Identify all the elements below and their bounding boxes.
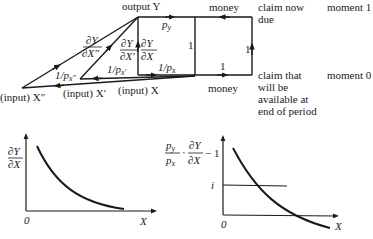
right-ylabel-frac1-num: py [165, 139, 176, 153]
claim-later-line4: end of period [258, 105, 317, 117]
claim-later-line1: claim that [258, 69, 302, 81]
left-curve [37, 146, 124, 209]
right-xlabel: X [334, 220, 343, 232]
svg-text:∂Y: ∂Y [86, 34, 99, 46]
arrow-up-dYdX1 [106, 47, 110, 51]
right-chart: py px · ∂Y ∂X − 1 i 0 X [165, 138, 343, 232]
interest-rate-label: i [211, 179, 214, 191]
svg-text:∂X′: ∂X′ [120, 50, 135, 62]
input-x2-label: (input) X″ [0, 91, 45, 104]
right-ylabel-dot: · [182, 146, 186, 158]
claim-now-line1: claim now [258, 1, 304, 13]
moment-1-label: moment 1 [327, 1, 371, 13]
input-x-label: (input) X [118, 84, 159, 97]
svg-text:∂Y: ∂Y [121, 37, 134, 49]
diagram-canvas: output Y (input) X″ (input) X′ (input) X… [0, 0, 373, 239]
svg-text:∂X: ∂X [141, 50, 154, 62]
left-ylabel-den: ∂X [8, 158, 21, 170]
claim-now-line2: due [258, 13, 274, 25]
right-x-axis [223, 215, 336, 216]
moment-0-label: moment 0 [327, 69, 372, 81]
left-xlabel: X [139, 215, 148, 227]
money-bottom-label: money [208, 82, 238, 94]
one-right-label: 1 [245, 43, 251, 55]
one-bottom-label: 1 [220, 60, 226, 72]
money-top-label: money [209, 1, 239, 13]
svg-text:∂Y: ∂Y [141, 37, 154, 49]
dY-dX2-fraction: ∂Y ∂X″ [82, 34, 102, 59]
right-ylabel-frac1-den: px [165, 154, 176, 168]
interest-rate-line [223, 185, 287, 186]
claim-later-line2: will be [258, 81, 288, 93]
dY-dX-fraction: ∂Y ∂X [141, 37, 157, 62]
right-ylabel-minus-one: − 1 [205, 147, 219, 159]
left-origin: 0 [24, 214, 30, 226]
py-label: py [161, 18, 172, 32]
dY-dX1-fraction: ∂Y ∂X′ [120, 37, 137, 62]
claim-later-line3: available at [258, 93, 308, 105]
inv-px1-label: 1/px′ [107, 63, 127, 77]
svg-text:∂X″: ∂X″ [82, 47, 99, 59]
right-ylabel-frac2-den: ∂X [188, 154, 201, 166]
one-mid-label: 1 [188, 39, 194, 51]
input-x1-label: (input) X′ [63, 87, 106, 100]
right-ylabel-frac2-num: ∂Y [189, 139, 202, 151]
inv-px2-label: 1/px″ [55, 69, 77, 83]
right-origin: 0 [221, 218, 227, 230]
left-ylabel-num: ∂Y [8, 145, 21, 157]
inv-px-label: 1/px [158, 61, 176, 75]
left-chart: ∂Y ∂X 0 X [8, 136, 154, 227]
output-y-label: output Y [122, 0, 160, 12]
arrow-left-inv-px2 [57, 85, 64, 86]
